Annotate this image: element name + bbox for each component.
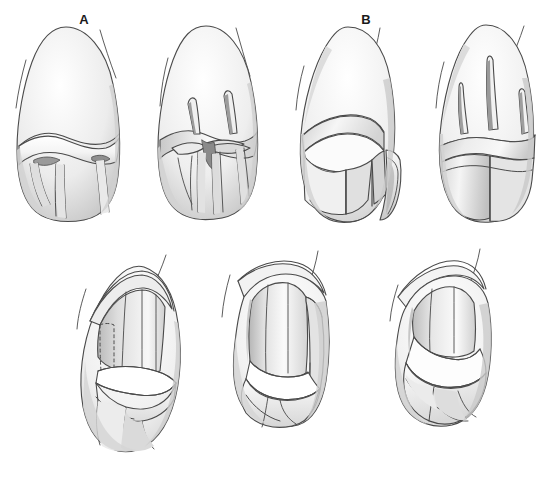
panel-d: D	[428, 0, 560, 245]
illustration-d	[428, 0, 560, 245]
panel-b: B	[148, 0, 288, 245]
panel-e: E	[52, 245, 212, 482]
illustration-f	[212, 245, 362, 482]
figure-plate: A	[0, 0, 560, 482]
illustration-b	[148, 0, 288, 245]
panel-a: A	[0, 0, 148, 245]
panel-label-a: A	[69, 13, 99, 26]
panel-g: G	[372, 245, 522, 482]
illustration-e	[52, 245, 212, 482]
illustration-c	[288, 0, 428, 245]
panel-c: C	[288, 0, 428, 245]
panel-f: F	[212, 245, 362, 482]
illustration-g	[372, 245, 522, 482]
illustration-a	[0, 0, 148, 245]
